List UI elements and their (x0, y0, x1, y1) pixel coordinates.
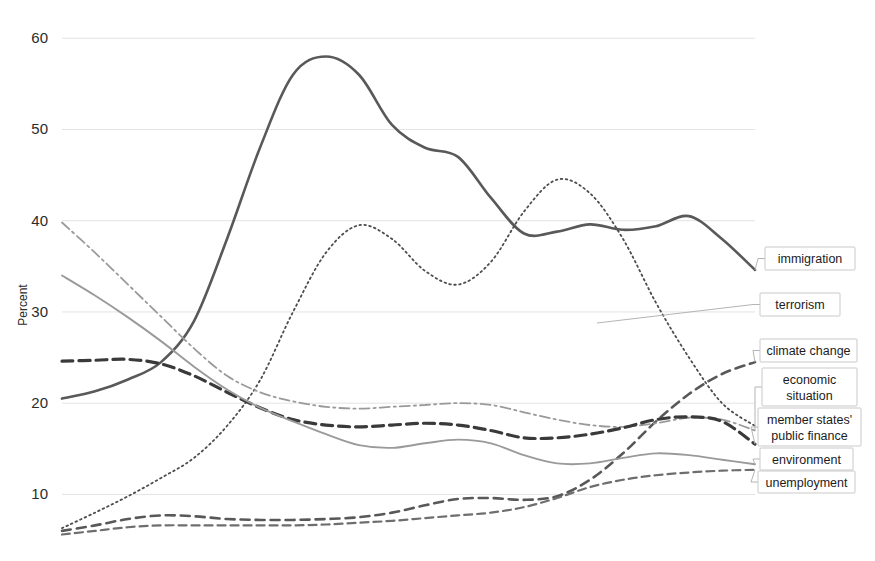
chart-canvas: 102030405060 Percent immigrationterroris… (0, 0, 875, 561)
series-label-text: situation (786, 389, 833, 403)
series-line-environment (62, 275, 755, 464)
leader-line (751, 470, 758, 482)
leader-line (755, 259, 765, 271)
series-label-text: immigration (778, 252, 843, 266)
series-label-text: economic (783, 373, 837, 387)
y-tick-label: 20 (31, 394, 48, 411)
y-axis-tick-labels: 102030405060 (31, 29, 48, 502)
line-chart: 102030405060 Percent immigrationterroris… (0, 0, 875, 561)
leader-line (597, 305, 760, 324)
series-label-text: environment (772, 453, 841, 467)
data-series-group (62, 56, 755, 534)
series-line-unemployment (62, 470, 755, 535)
y-axis-title: Percent (16, 284, 30, 326)
leader-line (753, 351, 760, 363)
leader-lines (597, 259, 765, 483)
y-tick-label: 30 (31, 303, 48, 320)
series-label-text: unemployment (766, 476, 849, 490)
series-label-text: public finance (771, 429, 847, 443)
series-label-text: climate change (766, 344, 850, 358)
series-line-member-states-public-finance (62, 359, 755, 444)
series-label-text: terrorism (775, 298, 824, 312)
series-label-text: member states' (767, 413, 852, 427)
series-line-economic-situation (62, 223, 755, 431)
y-tick-label: 50 (31, 120, 48, 137)
y-tick-label: 10 (31, 485, 48, 502)
y-tick-label: 60 (31, 29, 48, 46)
series-labels: immigrationterrorismclimate changeeconom… (758, 247, 861, 493)
y-tick-label: 40 (31, 212, 48, 229)
y-axis-title-text: Percent (16, 284, 30, 326)
series-line-terrorism (62, 179, 755, 528)
series-line-immigration (62, 56, 755, 398)
